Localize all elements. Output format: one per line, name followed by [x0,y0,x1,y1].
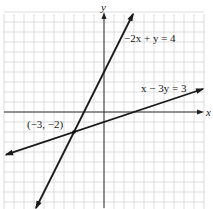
arrowhead-icon [127,13,133,22]
plot-line-1 [36,14,133,208]
arrowhead-icon [195,89,204,94]
x-axis-arrow-icon [197,110,204,115]
arrowhead-icon [5,150,14,155]
line1-label: −2x + y = 4 [124,32,176,44]
y-axis-label: y [100,1,106,13]
point-label: (−3, −2) [27,118,64,131]
line2-label: x − 3y = 3 [141,82,187,94]
coordinate-plane: x y −2x + y = 4 x − 3y = 3 (−3, −2) [0,0,213,209]
intersection-point [72,130,76,134]
x-axis-label: x [205,106,211,118]
y-axis-arrow-icon [102,12,107,19]
